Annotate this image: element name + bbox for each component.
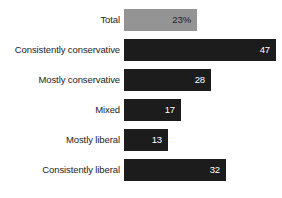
bar-row: Consistently conservative 47	[0, 39, 282, 61]
bar-value-label: 32	[210, 159, 220, 181]
bar-track: 17	[124, 99, 181, 121]
bar-mostly-liberal: 13	[124, 129, 168, 151]
bar-track: 28	[124, 69, 211, 91]
bar-category-label: Total	[100, 9, 124, 31]
bar-value-label: 17	[165, 99, 175, 121]
bar-row: Mostly liberal 13	[0, 129, 282, 151]
bar-value-label: 47	[260, 39, 270, 61]
bar-value-label: 23%	[172, 9, 191, 31]
bar-category-label: Mostly conservative	[38, 69, 124, 91]
bar-track: 13	[124, 129, 168, 151]
bar-value-label: 13	[152, 129, 162, 151]
bar-category-label: Consistently liberal	[42, 159, 124, 181]
bar-chart: Total 23% Consistently conservative 47 M…	[0, 0, 282, 198]
bar-category-label: Consistently conservative	[15, 39, 124, 61]
bar-row: Mixed 17	[0, 99, 282, 121]
bar-value-label: 28	[195, 69, 205, 91]
bar-track: 47	[124, 39, 276, 61]
bar-track: 32	[124, 159, 226, 181]
bar-track: 23%	[124, 9, 197, 31]
bar-total: 23%	[124, 9, 197, 31]
bar-category-label: Mixed	[95, 99, 124, 121]
bar-category-label: Mostly liberal	[66, 129, 124, 151]
bar-mostly-conservative: 28	[124, 69, 211, 91]
bar-consistently-liberal: 32	[124, 159, 226, 181]
bar-row: Total 23%	[0, 9, 282, 31]
bar-row: Consistently liberal 32	[0, 159, 282, 181]
bar-mixed: 17	[124, 99, 181, 121]
bar-consistently-conservative: 47	[124, 39, 276, 61]
bar-row: Mostly conservative 28	[0, 69, 282, 91]
